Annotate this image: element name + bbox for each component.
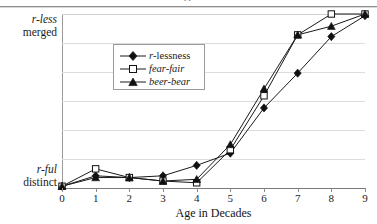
legend-item-fear-fair[interactable]: fear-fair	[119, 62, 199, 75]
y-axis-bottom-label-line1: r-ful	[37, 163, 57, 175]
x-tick-label-0: 0	[51, 192, 73, 204]
series-markers	[58, 10, 369, 190]
legend-item-beer-bear[interactable]: beer-bear	[119, 75, 199, 88]
x-tick-label-3: 3	[152, 192, 174, 204]
y-axis-top-label: r-less merged	[0, 13, 57, 38]
y-axis-top-label-line2: merged	[23, 26, 57, 38]
plot-area	[62, 14, 365, 188]
filled-diamond-icon	[119, 50, 147, 62]
y-axis-bottom-label: r-ful distinct	[0, 163, 57, 188]
legend-item-r-lessness[interactable]: r-lessness	[119, 49, 199, 62]
x-tick-label-5: 5	[219, 192, 241, 204]
point-beer-bear-8	[327, 22, 335, 29]
x-tick-label-1: 1	[85, 192, 107, 204]
point-fear-fair-1	[92, 166, 98, 172]
point-beer-bear-6	[260, 85, 268, 92]
series-line-r-lessness	[62, 16, 365, 187]
legend-label-fear-fair: fear-fair	[147, 63, 184, 74]
x-tick-label-7: 7	[287, 192, 309, 204]
point-beer-bear-5	[226, 141, 234, 148]
top-rule-shadow	[0, 7, 377, 8]
x-tick-label-9: 9	[354, 192, 376, 204]
open-square-icon	[119, 63, 147, 75]
x-tick-label-4: 4	[186, 192, 208, 204]
x-tick-label-8: 8	[320, 192, 342, 204]
series-paths	[62, 14, 365, 186]
point-r-lessness-4	[193, 161, 200, 169]
legend-label-beer-bear: beer-bear	[147, 76, 190, 87]
point-fear-fair-8	[328, 11, 334, 17]
figure-container: pp r-less merged r-ful distinct 01234567…	[0, 0, 377, 224]
filled-triangle-icon	[119, 76, 147, 88]
x-tick-label-6: 6	[253, 192, 275, 204]
x-tick-label-2: 2	[118, 192, 140, 204]
y-axis-bottom-label-line2: distinct	[23, 176, 57, 188]
series-line-fear-fair	[62, 14, 365, 186]
x-axis-title: Age in Decades	[62, 206, 365, 221]
point-fear-fair-6	[261, 93, 267, 99]
series-layer	[62, 14, 365, 188]
cut-caption-text: pp	[0, 0, 377, 1]
x-axis-line	[62, 188, 365, 189]
y-axis-top-label-line1: r-less	[32, 13, 57, 25]
series-line-beer-bear	[62, 14, 365, 186]
legend: r-lessness fear-fair beer-bear	[113, 44, 205, 90]
legend-label-r-lessness: r-lessness	[147, 50, 190, 61]
